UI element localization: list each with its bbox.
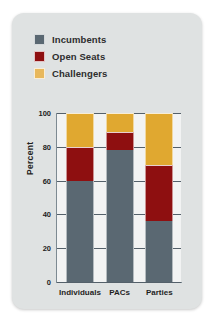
y-tick-label: 60 (43, 176, 51, 185)
y-tick-label: 20 (43, 244, 51, 253)
legend-label-incumbents: Incumbents (52, 34, 106, 45)
legend-item-challengers: Challengers (34, 65, 184, 81)
bar-segment-challengers (145, 113, 173, 165)
legend-label-challengers: Challengers (52, 68, 107, 79)
bar-segment-challengers (106, 113, 134, 132)
legend-item-open-seats: Open Seats (34, 48, 184, 64)
bar-segment-incumbents (66, 181, 94, 282)
legend-item-incumbents: Incumbents (34, 31, 184, 47)
y-tick-label: 0 (47, 278, 51, 287)
x-tick-label: Individuals (59, 288, 101, 297)
legend-swatch-challengers (34, 68, 45, 79)
plot-area: 020406080100 IndividualsPACsParties (57, 113, 181, 282)
y-axis-line (56, 113, 57, 282)
bar-individuals (66, 113, 94, 282)
bar-segment-challengers (66, 113, 94, 147)
bar-pacs (106, 113, 134, 282)
y-tick-label: 40 (43, 210, 51, 219)
bar-segment-incumbents (145, 221, 173, 282)
bar-segment-open-seats (106, 132, 134, 151)
legend-label-open-seats: Open Seats (52, 51, 105, 62)
y-tick-label: 100 (38, 109, 51, 118)
chart-card: Incumbents Open Seats Challengers Percen… (12, 13, 202, 309)
x-tick-label: Parties (146, 288, 173, 297)
bar-segment-open-seats (66, 147, 94, 181)
y-axis-label: Percent (25, 142, 35, 175)
bar-segment-open-seats (145, 165, 173, 221)
y-tick-label: 80 (43, 142, 51, 151)
bar-segment-incumbents (106, 150, 134, 282)
legend-swatch-incumbents (34, 34, 45, 45)
bar-parties (145, 113, 173, 282)
legend-swatch-open-seats (34, 51, 45, 62)
x-tick-label: PACs (109, 288, 130, 297)
chart-legend: Incumbents Open Seats Challengers (34, 31, 184, 82)
gridline (57, 282, 181, 283)
